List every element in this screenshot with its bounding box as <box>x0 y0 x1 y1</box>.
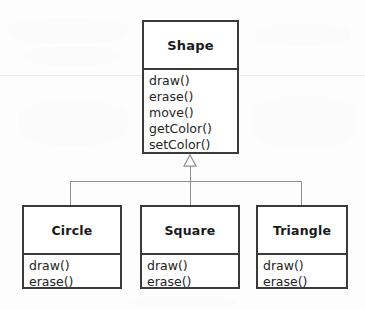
uml-operation: draw() <box>263 258 346 274</box>
generalization-drop-circle <box>70 181 71 206</box>
uml-operation: move() <box>149 105 237 121</box>
scan-ghost-text <box>255 24 351 46</box>
uml-class-name-square: Square <box>142 207 238 253</box>
uml-operation: erase() <box>149 89 237 105</box>
uml-class-triangle[interactable]: Triangle draw() erase() <box>256 205 348 289</box>
uml-class-shape[interactable]: Shape draw() erase() move() getColor() s… <box>142 20 239 154</box>
uml-operation: draw() <box>29 258 120 274</box>
uml-operations-square: draw() erase() <box>142 255 238 290</box>
uml-operations-shape: draw() erase() move() getColor() setColo… <box>144 70 237 153</box>
generalization-drop-triangle <box>301 181 302 206</box>
uml-class-name-triangle: Triangle <box>258 207 346 253</box>
uml-operations-triangle: draw() erase() <box>258 255 346 290</box>
generalization-stem <box>190 166 191 182</box>
uml-operations-circle: draw() erase() <box>24 255 120 290</box>
uml-class-circle[interactable]: Circle draw() erase() <box>22 205 122 289</box>
generalization-drop-square <box>190 181 191 206</box>
scan-ghost-text <box>252 96 356 148</box>
uml-operation: erase() <box>147 274 238 290</box>
uml-operation: draw() <box>149 73 237 89</box>
uml-class-diagram-canvas: Shape draw() erase() move() getColor() s… <box>0 0 365 310</box>
uml-class-square[interactable]: Square draw() erase() <box>140 205 240 289</box>
scan-ghost-text <box>24 46 120 66</box>
generalization-bus <box>70 181 302 182</box>
uml-class-name-circle: Circle <box>24 207 120 253</box>
scan-ghost-text <box>128 296 236 308</box>
uml-operation: erase() <box>29 274 120 290</box>
uml-operation: draw() <box>147 258 238 274</box>
uml-class-name-shape: Shape <box>144 22 237 68</box>
uml-operation: erase() <box>263 274 346 290</box>
scan-ghost-text <box>18 100 128 146</box>
uml-operation: getColor() <box>149 121 237 137</box>
scan-ghost-text <box>8 18 128 44</box>
uml-operation: setColor() <box>149 137 237 153</box>
